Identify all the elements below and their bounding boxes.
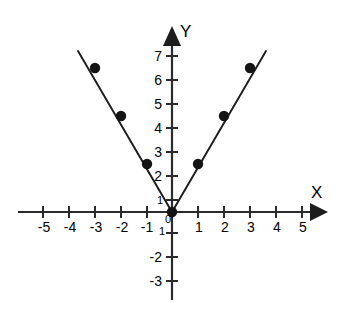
x-tick-label-4: 4 [267, 219, 287, 235]
y-tick-label-2: 2 [144, 168, 162, 184]
data-point [245, 63, 255, 73]
y-tick-label-5: 5 [144, 96, 162, 112]
y-tick-label--2: -2 [144, 249, 162, 265]
x-tick-label-3: 3 [241, 219, 261, 235]
y-axis-arrow-icon [163, 26, 181, 46]
graph-canvas [0, 0, 344, 313]
x-axis-label: X [311, 183, 322, 203]
coordinate-graph: -5 -4 -3 -2 -1 1 2 3 4 5 7 6 5 4 3 2 1 1… [0, 0, 344, 313]
x-tick-label-1: 1 [189, 219, 209, 235]
x-tick-label--5: -5 [34, 219, 54, 235]
origin-label: 0 [161, 213, 175, 225]
y-axis-label: Y [180, 22, 191, 42]
y-tick-label-7: 7 [144, 48, 162, 64]
y-tick-label-4: 4 [144, 120, 162, 136]
y-tick-label-1: 1 [149, 194, 163, 206]
y-tick-label--1: 1 [151, 225, 165, 237]
x-tick-label--2: -2 [112, 219, 132, 235]
x-tick-label--3: -3 [86, 219, 106, 235]
y-tick-label-3: 3 [144, 144, 162, 160]
x-tick-label--4: -4 [60, 219, 80, 235]
data-point [219, 111, 229, 121]
y-tick-label--3: -3 [144, 273, 162, 289]
x-tick-label-5: 5 [293, 219, 313, 235]
data-point [116, 111, 126, 121]
data-point [90, 63, 100, 73]
x-tick-label-2: 2 [215, 219, 235, 235]
y-tick-label-6: 6 [144, 72, 162, 88]
data-point [193, 159, 203, 169]
